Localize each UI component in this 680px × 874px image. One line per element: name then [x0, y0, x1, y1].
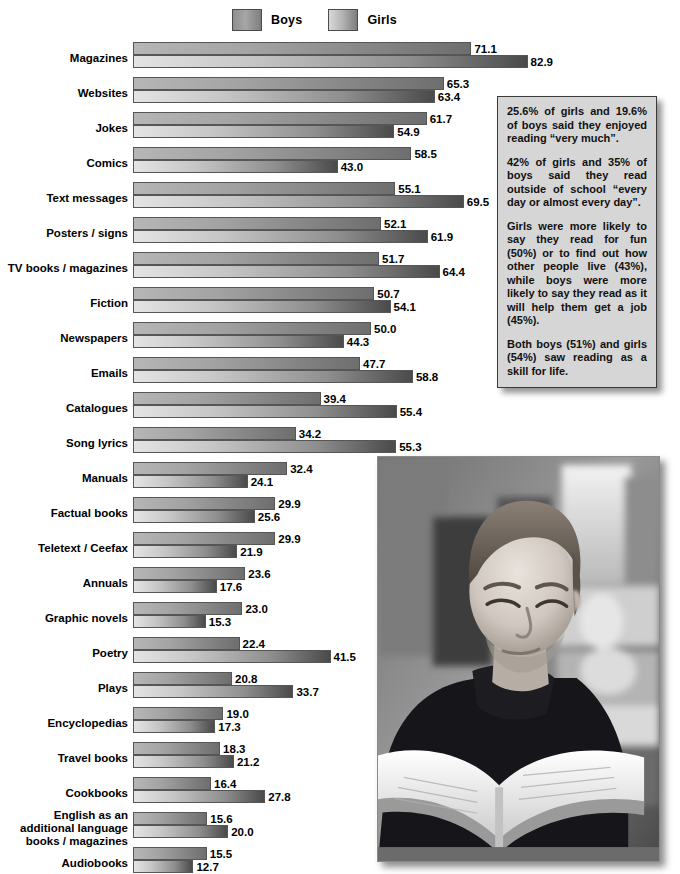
bar-fill-girls	[133, 615, 206, 628]
bar-fill-girls	[133, 720, 215, 733]
bar-value-label: 16.4	[211, 778, 236, 790]
bar-value-label: 58.5	[411, 148, 436, 160]
legend-entry-boys: Boys	[232, 9, 302, 31]
bar-fill-boys	[133, 322, 371, 335]
category-label: Emails	[0, 366, 128, 379]
bar-value-label: 25.6	[255, 511, 280, 523]
photo-illustration-icon	[378, 457, 659, 861]
chart-legend: Boys Girls	[232, 8, 397, 32]
bar-fill-boys	[133, 812, 207, 825]
bar-value-label: 54.9	[394, 126, 419, 138]
category-label: Audiobooks	[0, 856, 128, 869]
bar-value-label: 22.4	[240, 638, 265, 650]
bar-value-label: 65.3	[444, 78, 469, 90]
bar-value-label: 29.9	[275, 498, 300, 510]
bar-fill-boys	[133, 497, 275, 510]
callout-paragraph: Both boys (51%) and girls (54%) saw read…	[507, 338, 647, 379]
bar-value-label: 71.1	[471, 43, 496, 55]
bar-value-label: 54.1	[391, 301, 416, 313]
bar-fill-boys	[133, 287, 374, 300]
bar-fill-girls	[133, 475, 248, 488]
category-label: Posters / signs	[0, 226, 128, 239]
bar-fill-boys	[133, 462, 287, 475]
bar-fill-girls	[133, 440, 396, 453]
bar-value-label: 82.9	[528, 56, 553, 68]
bar-fill-girls	[133, 230, 428, 243]
category-label: Plays	[0, 681, 128, 694]
bar-value-label: 18.3	[220, 743, 245, 755]
bar-fill-boys	[133, 847, 207, 860]
bar-fill-boys	[133, 602, 242, 615]
bar-value-label: 21.2	[234, 756, 259, 768]
bar-value-label: 50.7	[374, 288, 399, 300]
category-label: Graphic novels	[0, 611, 128, 624]
legend-swatch-boys-icon	[232, 9, 262, 31]
bar-fill-boys	[133, 252, 379, 265]
category-label: Teletext / Ceefax	[0, 541, 128, 554]
bar-value-label: 52.1	[381, 218, 406, 230]
bar-value-label: 21.9	[237, 546, 262, 558]
bar-value-label: 50.0	[371, 323, 396, 335]
bar-value-label: 24.1	[248, 476, 273, 488]
bar-value-label: 44.3	[344, 336, 369, 348]
category-label: Fiction	[0, 296, 128, 309]
category-label: Travel books	[0, 751, 128, 764]
category-label: Song lyrics	[0, 436, 128, 449]
bar-value-label: 64.4	[440, 266, 465, 278]
bar-fill-girls	[133, 90, 435, 103]
bar-fill-boys	[133, 742, 220, 755]
bar-value-label: 23.6	[245, 568, 270, 580]
bar-fill-girls	[133, 580, 217, 593]
bar-fill-boys	[133, 77, 444, 90]
bar-fill-boys	[133, 777, 211, 790]
category-label: TV books / magazines	[0, 261, 128, 274]
bar-fill-girls	[133, 685, 293, 698]
bar-value-label: 55.4	[397, 406, 422, 418]
chart-row: Catalogues39.455.4	[0, 390, 680, 425]
bar-fill-girls	[133, 755, 234, 768]
category-label: Encyclopedias	[0, 716, 128, 729]
bar-fill-boys	[133, 567, 245, 580]
bar-value-label: 23.0	[242, 603, 267, 615]
bar-value-label: 43.0	[338, 161, 363, 173]
bar-fill-girls	[133, 265, 440, 278]
bar-value-label: 15.6	[207, 813, 232, 825]
bar-value-label: 20.8	[232, 673, 257, 685]
bar-fill-boys	[133, 707, 223, 720]
category-label: Websites	[0, 86, 128, 99]
bar-fill-boys	[133, 147, 411, 160]
bar-value-label: 17.6	[217, 581, 242, 593]
bar-value-label: 32.4	[287, 463, 312, 475]
bar-value-label: 33.7	[293, 686, 318, 698]
chart-row: Song lyrics34.255.3	[0, 425, 680, 460]
bar-fill-boys	[133, 42, 471, 55]
bar-fill-boys	[133, 182, 395, 195]
bar-fill-boys	[133, 357, 360, 370]
legend-label-boys: Boys	[271, 13, 302, 27]
bar-fill-girls	[133, 160, 338, 173]
bar-value-label: 61.9	[428, 231, 453, 243]
callout-paragraph: Girls were more likely to say they read …	[507, 220, 647, 328]
bar-fill-boys	[133, 672, 232, 685]
bar-value-label: 12.7	[193, 861, 218, 873]
bar-fill-girls	[133, 825, 228, 838]
category-label: Annuals	[0, 576, 128, 589]
bar-fill-boys	[133, 217, 381, 230]
category-label: English as an additional language books …	[0, 808, 128, 847]
callout-paragraph: 42% of girls and 35% of boys said they r…	[507, 156, 647, 210]
chart-row: Magazines71.182.9	[0, 40, 680, 75]
bar-value-label: 17.3	[215, 721, 240, 733]
bar-value-label: 15.3	[206, 616, 231, 628]
bar-value-label: 55.1	[395, 183, 420, 195]
category-label: Newspapers	[0, 331, 128, 344]
bar-fill-girls	[133, 510, 255, 523]
statistics-callout-box: 25.6% of girls and 19.6% of boys said th…	[497, 96, 657, 388]
bar-fill-girls	[133, 650, 331, 663]
bar-value-label: 29.9	[275, 533, 300, 545]
category-label: Catalogues	[0, 401, 128, 414]
category-label: Text messages	[0, 191, 128, 204]
legend-swatch-girls-icon	[328, 9, 358, 31]
callout-paragraph: 25.6% of girls and 19.6% of boys said th…	[507, 105, 647, 146]
bar-value-label: 51.7	[379, 253, 404, 265]
bar-value-label: 58.8	[413, 371, 438, 383]
